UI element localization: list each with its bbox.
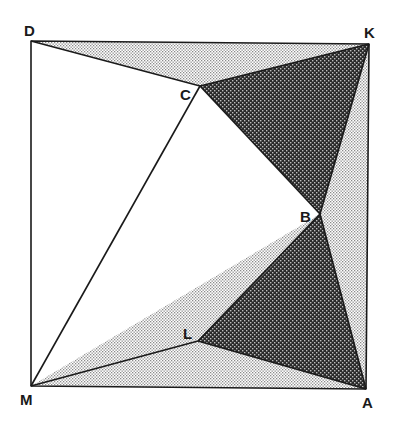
label-l: L	[183, 325, 192, 342]
label-c: C	[180, 86, 191, 103]
label-a: A	[362, 394, 373, 411]
label-k: K	[364, 24, 375, 41]
label-m: M	[20, 391, 33, 408]
label-b: B	[300, 208, 311, 225]
geometry-diagram: D K C B L M A	[0, 0, 393, 425]
label-d: D	[24, 22, 35, 39]
